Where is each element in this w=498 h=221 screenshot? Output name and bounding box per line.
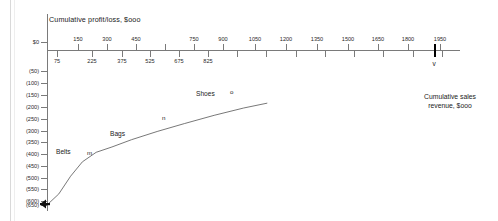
y-tick [41,107,47,108]
page-border-left-inner [14,0,15,221]
y-tick [41,201,47,202]
y-tick [41,83,47,84]
node-label-o: o [230,88,233,95]
y-tick-label: (650) [26,202,39,208]
x-tick-upper [136,44,137,51]
y-tick [41,142,47,143]
v-marker-label: v [432,60,435,67]
y-tick-label: (100) [26,80,39,86]
y-tick-label: (250) [26,116,39,122]
x-axis-label-line2: revenue, $ooo [408,101,492,110]
profit-loss-curve [0,0,498,221]
node-label-n: n [162,114,165,121]
x-axis-line [47,50,460,51]
y-tick [41,42,47,43]
x-tick-lower [383,50,384,57]
x-tick-upper [194,44,195,51]
y-tick [41,95,47,96]
x-tick-lower [92,50,93,57]
y-tick [41,166,47,167]
page-border-left [10,0,11,221]
x-tick-label-lower: 675 [174,58,183,64]
node-label-m: m [87,149,92,156]
x-tick-lower [57,50,58,57]
chart-canvas: Cumulative profit/loss, $ooo Cumulative … [0,0,498,221]
x-tick-label-upper: 1050 [249,36,261,42]
segment-label-bags: Bags [110,130,125,137]
x-tick-upper [78,44,79,51]
x-tick-label-upper: 150 [73,36,82,42]
x-tick-lower [296,50,297,57]
x-tick-upper [223,44,224,51]
x-tick-lower [237,50,238,57]
x-tick-label-upper: 450 [131,36,140,42]
y-tick [41,205,47,206]
x-tick-label-upper: 300 [102,36,111,42]
x-tick-upper [378,44,379,51]
y-tick-label: (400) [26,151,39,157]
x-tick-label-lower: 225 [87,58,96,64]
x-tick-lower [442,50,443,57]
segment-label-shoes: Shoes [196,90,215,97]
y-tick-label: (500) [26,175,39,181]
x-tick-label-upper: 1800 [402,36,414,42]
x-tick-upper [255,44,256,51]
x-tick-upper [107,44,108,51]
y-tick-label: (300) [26,128,39,134]
x-tick-lower [266,50,267,57]
x-tick-label-lower: 75 [54,58,60,64]
y-tick-label: (150) [26,92,39,98]
x-tick-lower [354,50,355,57]
x-tick-label-upper: 1650 [372,36,384,42]
chart-title: Cumulative profit/loss, $ooo [49,15,141,24]
x-tick-label-upper: 1350 [311,36,323,42]
x-tick-label-upper: 1950 [434,36,446,42]
y-tick-label: (550) [26,186,39,192]
highlight-tick-marker [434,44,436,57]
x-tick-label-upper: 1500 [342,36,354,42]
x-tick-label-lower: 825 [203,58,212,64]
x-axis-label-line1: Cumulative sales [408,92,492,101]
y-tick-label: (450) [26,163,39,169]
y-tick [41,71,47,72]
x-tick-label-upper: 1200 [280,36,292,42]
x-tick-upper [440,44,441,51]
y-tick [41,131,47,132]
x-tick-upper [348,44,349,51]
x-tick-lower [179,50,180,57]
y-tick [41,178,47,179]
x-tick-label-upper: 750 [189,36,198,42]
x-tick-lower [208,50,209,57]
x-tick-label-lower: 525 [145,58,154,64]
y-tick [41,189,47,190]
y-tick-label: (350) [26,139,39,145]
y-tick-label: (200) [26,104,39,110]
x-tick-label-upper: 900 [218,36,227,42]
y-axis-line [47,14,48,211]
y-tick-label: $0 [33,39,39,45]
x-tick-lower [122,50,123,57]
y-tick [41,119,47,120]
y-tick-label: (50) [29,68,39,74]
x-tick-label-lower: 375 [117,58,126,64]
x-tick-upper [286,44,287,51]
x-tick-lower [150,50,151,57]
x-tick-lower [325,50,326,57]
x-tick-upper [317,44,318,51]
x-tick-upper [165,44,166,51]
segment-label-belts: Belts [56,148,71,155]
x-axis-label: Cumulative sales revenue, $ooo [408,92,492,110]
x-tick-lower [413,50,414,57]
x-tick-upper [408,44,409,51]
y-tick [41,154,47,155]
